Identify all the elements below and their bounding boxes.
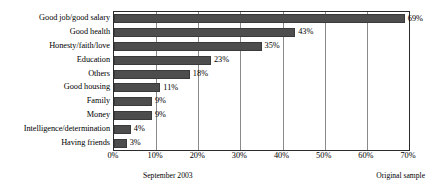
- bar-row: 23%: [114, 53, 409, 67]
- x-tick-label: 10%: [148, 151, 163, 161]
- category-label: Good health: [0, 27, 110, 36]
- bar-row: 43%: [114, 26, 409, 40]
- x-tick-label: 20%: [190, 151, 205, 161]
- bar-chart: Good job/good salaryGood healthHonesty/f…: [0, 0, 431, 196]
- category-label: Intelligence/determination: [0, 124, 110, 133]
- bar-value-label: 11%: [163, 83, 178, 93]
- bar-row: 35%: [114, 40, 409, 54]
- bar-row: 69%: [114, 12, 409, 26]
- bar-value-label: 9%: [155, 96, 166, 106]
- bar-value-label: 35%: [265, 41, 280, 51]
- bar-value-label: 3%: [130, 138, 141, 148]
- category-label: Honesty/faith/love: [0, 41, 110, 50]
- x-tick-label: 30%: [232, 151, 247, 161]
- plot-area: 69%43%35%23%18%11%9%9%4%3%: [113, 11, 410, 151]
- bar-row: 3%: [114, 136, 409, 150]
- bar-row: 9%: [114, 109, 409, 123]
- bar: [114, 14, 405, 23]
- bar-row: 11%: [114, 81, 409, 95]
- bar-value-label: 4%: [134, 124, 145, 134]
- x-tick-label: 40%: [274, 151, 289, 161]
- bar-value-label: 23%: [214, 55, 229, 65]
- bar-value-label: 18%: [193, 69, 208, 79]
- bar: [114, 139, 127, 148]
- category-label: Having friends: [0, 138, 110, 147]
- category-label: Education: [0, 55, 110, 64]
- category-label: Others: [0, 69, 110, 78]
- bar: [114, 28, 295, 37]
- x-tick-label: 50%: [316, 151, 331, 161]
- bar-value-label: 69%: [408, 14, 423, 24]
- category-label: Family: [0, 96, 110, 105]
- bar: [114, 125, 131, 134]
- bar-row: 18%: [114, 67, 409, 81]
- footer-date-note: September 2003: [143, 171, 193, 180]
- bar: [114, 83, 160, 92]
- category-label: Good housing: [0, 82, 110, 91]
- footer-sample-note: Original sample: [376, 171, 425, 180]
- bar: [114, 97, 152, 106]
- category-axis-labels: Good job/good salaryGood healthHonesty/f…: [0, 11, 110, 149]
- x-tick-label: 70%: [400, 151, 415, 161]
- bar: [114, 70, 190, 79]
- bar-row: 9%: [114, 95, 409, 109]
- x-axis-tick-labels: 0%10%20%30%40%50%60%70%: [113, 151, 408, 165]
- category-label: Good job/good salary: [0, 13, 110, 22]
- x-tick-label: 0%: [107, 151, 118, 161]
- category-label: Money: [0, 110, 110, 119]
- bar-row: 4%: [114, 122, 409, 136]
- x-tick-label: 60%: [358, 151, 373, 161]
- bar: [114, 42, 262, 51]
- bar: [114, 56, 211, 65]
- bar-value-label: 9%: [155, 110, 166, 120]
- bar-value-label: 43%: [298, 27, 313, 37]
- bar: [114, 111, 152, 120]
